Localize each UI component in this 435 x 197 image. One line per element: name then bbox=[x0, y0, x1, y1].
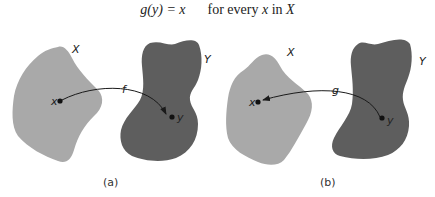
set-x-label: X bbox=[71, 43, 80, 56]
point-y bbox=[169, 114, 174, 119]
point-y-label: y bbox=[386, 114, 394, 127]
mapping-diagram: X Y x y f (a) X Y x y g (b) bbox=[0, 0, 435, 197]
point-y-label: y bbox=[176, 111, 184, 124]
caption-b: (b) bbox=[320, 176, 336, 189]
set-y-label: Y bbox=[204, 53, 212, 66]
set-y-shape bbox=[332, 39, 412, 159]
panel-a: X Y x y f (a) bbox=[13, 40, 212, 189]
point-x-label: x bbox=[248, 96, 256, 109]
point-x bbox=[255, 99, 260, 104]
caption-a: (a) bbox=[103, 176, 118, 189]
arrow-g-label: g bbox=[332, 84, 339, 97]
set-x-label: X bbox=[286, 46, 295, 59]
panel-b: X Y x y g (b) bbox=[226, 39, 427, 189]
set-y-label: Y bbox=[419, 55, 427, 68]
point-x bbox=[57, 98, 62, 103]
set-x-shape bbox=[226, 54, 312, 165]
set-y-shape bbox=[120, 40, 201, 161]
point-x-label: x bbox=[50, 95, 58, 108]
point-y bbox=[379, 115, 384, 120]
